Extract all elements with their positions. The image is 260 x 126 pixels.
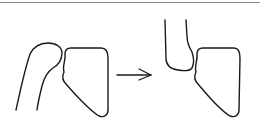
- diagram-canvas: [0, 0, 260, 126]
- before-curved-shaft: [16, 43, 62, 110]
- after-block: [195, 48, 240, 117]
- before-block: [63, 48, 108, 117]
- after-panel: [165, 20, 240, 117]
- transition-arrow: [117, 69, 151, 80]
- before-panel: [16, 43, 108, 117]
- after-u-shaped-end: [165, 20, 194, 71]
